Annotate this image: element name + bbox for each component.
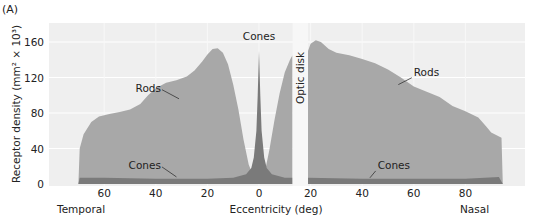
y-tick-label: 40 [31,143,44,155]
y-tick-label: 80 [31,107,44,119]
annotation-cones: Cones [129,159,161,171]
annotation-cones: Cones [378,159,410,171]
annotation-rods: Rods [136,82,161,94]
x-tick-label: 40 [356,187,369,199]
panel-label: (A) [2,3,18,16]
x-tick-label: 80 [459,187,472,199]
x-tick-label: 20 [304,187,317,199]
x-tick-label: 60 [98,187,111,199]
annotation-rods: Rods [414,66,439,78]
y-tick-label: 160 [24,36,44,48]
y-axis-label: Receptor density (mm² × 10³) [10,25,22,183]
x-tick-label: 60 [407,187,420,199]
x-axis-ticks: 604020020406080 [98,187,473,199]
x-tick-label: 40 [149,187,162,199]
y-axis-ticks: 04080120160 [24,36,44,190]
y-tick-label: 0 [37,178,44,190]
x-axis-label: Eccentricity (deg) [230,203,323,215]
optic-disk-region: Optic disk [293,23,308,186]
x-tick-label: 20 [201,187,214,199]
x-tick-label: 0 [256,187,263,199]
optic-disk-label: Optic disk [294,51,306,104]
y-tick-label: 120 [24,72,44,84]
receptor-density-chart: (A) Optic disk 04080120160 6040200204060… [0,0,533,223]
temporal-label: Temporal [56,203,105,215]
annotation-cones: Cones [243,30,275,42]
nasal-label: Nasal [460,203,489,215]
